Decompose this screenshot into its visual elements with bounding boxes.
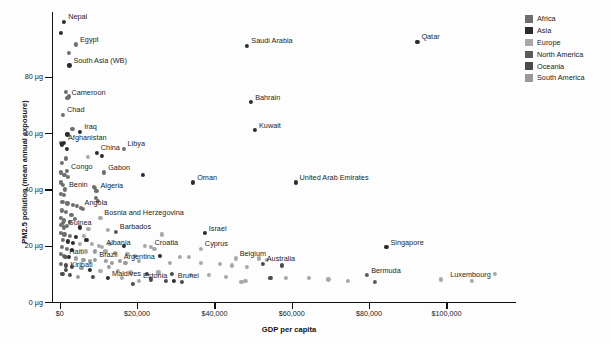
- data-point[interactable]: [245, 44, 249, 48]
- data-point[interactable]: [284, 276, 288, 280]
- data-point[interactable]: [60, 245, 64, 249]
- data-point[interactable]: [66, 239, 70, 243]
- data-point[interactable]: [261, 262, 265, 266]
- data-point[interactable]: [152, 246, 156, 250]
- data-point[interactable]: [60, 161, 64, 165]
- data-point[interactable]: [121, 146, 125, 150]
- data-point[interactable]: [102, 170, 106, 174]
- data-point[interactable]: [107, 265, 111, 269]
- data-point[interactable]: [63, 210, 67, 214]
- data-point[interactable]: [90, 242, 94, 246]
- data-point[interactable]: [365, 273, 369, 277]
- data-point[interactable]: [74, 42, 78, 46]
- data-point[interactable]: [249, 100, 253, 104]
- data-point[interactable]: [62, 193, 66, 197]
- data-point[interactable]: [137, 279, 141, 283]
- data-point[interactable]: [294, 180, 298, 184]
- data-point[interactable]: [141, 173, 145, 177]
- data-point[interactable]: [98, 215, 102, 219]
- data-point[interactable]: [66, 175, 70, 179]
- data-point[interactable]: [62, 232, 66, 236]
- data-point[interactable]: [67, 51, 71, 55]
- data-point[interactable]: [187, 255, 191, 259]
- data-point[interactable]: [118, 259, 122, 263]
- data-point[interactable]: [123, 260, 127, 264]
- data-point[interactable]: [199, 246, 203, 250]
- data-point[interactable]: [106, 276, 110, 280]
- data-point[interactable]: [71, 241, 75, 245]
- data-point[interactable]: [168, 260, 172, 264]
- data-point[interactable]: [131, 282, 135, 286]
- data-point[interactable]: [98, 269, 102, 273]
- data-point[interactable]: [100, 153, 104, 157]
- data-point[interactable]: [93, 258, 97, 262]
- data-point[interactable]: [199, 260, 203, 264]
- data-point[interactable]: [95, 151, 99, 155]
- data-point[interactable]: [439, 277, 443, 281]
- data-point[interactable]: [373, 280, 377, 284]
- data-point[interactable]: [65, 96, 69, 100]
- data-point[interactable]: [158, 253, 162, 257]
- data-point[interactable]: [84, 249, 88, 253]
- legend-item[interactable]: North America: [525, 48, 611, 60]
- data-point[interactable]: [245, 265, 249, 269]
- data-point[interactable]: [178, 255, 182, 259]
- data-point[interactable]: [62, 225, 66, 229]
- data-point[interactable]: [493, 272, 497, 276]
- data-point[interactable]: [469, 279, 473, 283]
- data-point[interactable]: [61, 238, 65, 242]
- data-point[interactable]: [65, 246, 69, 250]
- data-point[interactable]: [68, 234, 72, 238]
- data-point[interactable]: [65, 201, 69, 205]
- data-point[interactable]: [384, 245, 388, 249]
- data-point[interactable]: [280, 263, 284, 267]
- data-point[interactable]: [65, 169, 69, 173]
- data-point[interactable]: [61, 113, 65, 117]
- data-point[interactable]: [78, 242, 82, 246]
- data-point[interactable]: [230, 263, 234, 267]
- data-point[interactable]: [59, 262, 63, 266]
- data-point[interactable]: [114, 230, 118, 234]
- data-point[interactable]: [62, 141, 66, 145]
- data-point[interactable]: [84, 238, 88, 242]
- data-point[interactable]: [234, 256, 238, 260]
- data-point[interactable]: [243, 279, 247, 283]
- data-point[interactable]: [67, 63, 71, 67]
- data-point[interactable]: [64, 268, 68, 272]
- data-point[interactable]: [326, 277, 330, 281]
- data-point[interactable]: [68, 273, 72, 277]
- data-point[interactable]: [160, 232, 164, 236]
- data-point[interactable]: [218, 262, 222, 266]
- data-point[interactable]: [110, 260, 114, 264]
- data-point[interactable]: [268, 276, 272, 280]
- data-point[interactable]: [191, 180, 195, 184]
- data-point[interactable]: [59, 31, 63, 35]
- data-point[interactable]: [76, 275, 80, 279]
- data-point[interactable]: [307, 276, 311, 280]
- data-point[interactable]: [207, 273, 211, 277]
- data-point[interactable]: [63, 187, 67, 191]
- data-point[interactable]: [172, 279, 176, 283]
- data-point[interactable]: [62, 20, 66, 24]
- data-point[interactable]: [91, 275, 95, 279]
- data-point[interactable]: [170, 272, 174, 276]
- data-point[interactable]: [253, 128, 257, 132]
- data-point[interactable]: [60, 272, 64, 276]
- data-point[interactable]: [85, 155, 89, 159]
- data-point[interactable]: [106, 228, 110, 232]
- data-point[interactable]: [86, 227, 90, 231]
- legend-item[interactable]: South America: [525, 72, 611, 84]
- data-point[interactable]: [203, 231, 207, 235]
- data-point[interactable]: [92, 249, 96, 253]
- legend-item[interactable]: Oceania: [525, 60, 611, 72]
- data-point[interactable]: [64, 156, 68, 160]
- data-point[interactable]: [65, 146, 69, 150]
- legend-item[interactable]: Asia: [525, 25, 611, 37]
- legend-item[interactable]: Africa: [525, 13, 611, 25]
- data-point[interactable]: [104, 259, 108, 263]
- data-point[interactable]: [143, 244, 147, 248]
- data-point[interactable]: [415, 39, 419, 43]
- data-point[interactable]: [224, 275, 228, 279]
- data-point[interactable]: [73, 235, 77, 239]
- data-point[interactable]: [70, 127, 74, 131]
